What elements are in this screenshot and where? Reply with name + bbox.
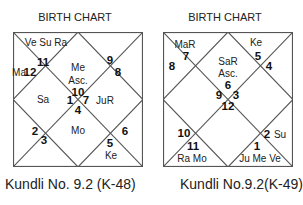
chart-grid: Ve Su Ra11Ma12MeAsc.1098Sa17JuR4Mo2365Ke	[13, 32, 143, 167]
house-number: 9	[107, 55, 113, 66]
planet-label: SaR	[218, 56, 237, 67]
chart-lines	[13, 32, 143, 167]
house-number: 11	[187, 141, 199, 152]
chart-grid: MaR78Ke54SaRAsc.693121011Ra Mo2Su1Ju Me …	[163, 32, 293, 167]
planet-label: MaR	[174, 39, 195, 50]
house-number: 6	[225, 80, 231, 91]
house-number: 6	[122, 126, 128, 137]
planet-label: Su	[274, 129, 286, 140]
house-number: 5	[255, 51, 261, 62]
planet-label: JuR	[96, 95, 114, 106]
planet-label: Ke	[250, 37, 262, 48]
planet-label: Ju Me Ve	[239, 153, 281, 164]
planet-label: Ra Mo	[177, 153, 206, 164]
birth-chart-k49: BIRTH CHART MaR78Ke54SaRAsc.693121011Ra …	[150, 0, 300, 205]
house-number: 8	[169, 61, 175, 72]
planet-label: Ke	[105, 150, 117, 161]
planet-label: Me	[71, 62, 85, 73]
planet-label: Asc.	[68, 75, 87, 86]
chart-title: BIRTH CHART	[0, 11, 150, 23]
chart-caption: Kundli No.9.2(K-49)	[180, 176, 303, 192]
house-number: 4	[266, 61, 272, 72]
house-number: 1	[254, 141, 260, 152]
house-number: 11	[37, 57, 49, 68]
planet-label: Asc.	[218, 68, 237, 79]
planet-label: Sa	[37, 94, 49, 105]
house-number: 1	[67, 95, 73, 106]
chart-title: BIRTH CHART	[150, 11, 300, 23]
house-number: 12	[24, 67, 37, 78]
birth-chart-k48: BIRTH CHART Ve Su Ra11Ma12MeAsc.1098Sa17…	[0, 0, 150, 205]
chart-caption: Kundli No. 9.2 (K-48)	[5, 176, 136, 192]
house-number: 7	[83, 95, 89, 106]
house-number: 4	[75, 105, 81, 116]
house-number: 2	[264, 129, 270, 140]
house-number: 8	[115, 67, 121, 78]
house-number: 2	[32, 126, 38, 137]
house-number: 12	[222, 101, 235, 112]
house-number: 3	[41, 135, 47, 146]
planet-label: Mo	[71, 125, 85, 136]
planet-label: Ve Su Ra	[25, 37, 67, 48]
house-number: 10	[178, 128, 191, 139]
house-number: 5	[107, 138, 113, 149]
house-number: 7	[183, 51, 189, 62]
